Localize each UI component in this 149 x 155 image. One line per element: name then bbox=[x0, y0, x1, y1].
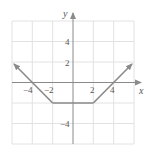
x-tick-label: 2 bbox=[90, 85, 95, 95]
x-axis-label: x bbox=[138, 85, 144, 96]
axes bbox=[12, 13, 141, 144]
x-tick-label: −2 bbox=[44, 85, 54, 95]
coordinate-plane-chart: x y −4 −2 2 4 4 2 −4 bbox=[0, 0, 149, 155]
x-tick-label: 4 bbox=[110, 85, 115, 95]
y-tick-label: 4 bbox=[65, 37, 70, 47]
y-tick-label: 2 bbox=[65, 58, 70, 68]
x-tick-label: −4 bbox=[23, 85, 33, 95]
y-tick-label: −4 bbox=[60, 119, 70, 129]
y-axis-label: y bbox=[62, 8, 68, 19]
